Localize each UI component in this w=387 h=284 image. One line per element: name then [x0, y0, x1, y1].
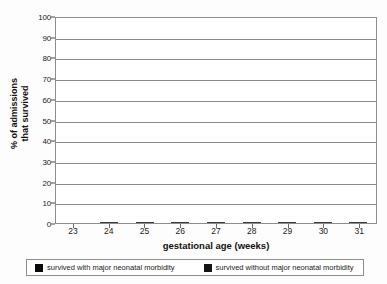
- bar-segment-without-morbidity[interactable]: [136, 222, 154, 223]
- y-axis-tick-mark: [51, 182, 55, 183]
- y-axis-tick-label: 40: [43, 137, 52, 146]
- y-axis-tick-label: 80: [43, 54, 52, 63]
- x-axis-tick-mark: [144, 224, 145, 228]
- x-axis-tick-label: 27: [198, 226, 234, 240]
- bar-segment-without-morbidity[interactable]: [278, 222, 296, 223]
- bar-series-group: [56, 18, 376, 223]
- x-axis-tick-mark: [252, 224, 253, 228]
- x-axis-ticks: 232425262728293031: [55, 226, 377, 240]
- bar-segment-without-morbidity[interactable]: [207, 222, 225, 223]
- x-axis-tick-label: 23: [55, 226, 91, 240]
- legend-item-with-morbidity: survived with major neonatal morbidity: [35, 263, 175, 272]
- bar-segment-without-morbidity[interactable]: [243, 222, 261, 223]
- x-axis-tick-mark: [180, 224, 181, 228]
- legend-label-without-morbidity: survived without major neonatal morbidit…: [216, 263, 354, 272]
- y-axis-tick-mark: [51, 17, 55, 18]
- chart-legend: survived with major neonatal morbidity s…: [26, 259, 364, 276]
- y-axis-tick-mark: [51, 37, 55, 38]
- bar-slot: [305, 18, 341, 223]
- stacked-bar[interactable]: [136, 222, 154, 223]
- x-axis-label: gestational age (weeks): [55, 240, 377, 251]
- chart-figure: % of admissions that survived 0102030405…: [0, 0, 387, 284]
- y-axis-tick-label: 100: [38, 13, 51, 22]
- bar-slot: [92, 18, 128, 223]
- y-axis-tick-label: 10: [43, 199, 52, 208]
- y-axis-tick-label: 30: [43, 157, 52, 166]
- x-axis-tick-mark: [109, 224, 110, 228]
- bar-segment-without-morbidity[interactable]: [171, 222, 189, 223]
- y-axis-tick-label: 20: [43, 178, 52, 187]
- bar-slot: [341, 18, 377, 223]
- stacked-bar[interactable]: [207, 222, 225, 223]
- x-axis-tick-label: 31: [341, 226, 377, 240]
- bar-slot: [198, 18, 234, 223]
- x-axis-tick-label: 29: [270, 226, 306, 240]
- y-axis-tick-mark: [51, 79, 55, 80]
- y-axis-tick-label: 50: [43, 116, 52, 125]
- x-axis-tick-mark: [73, 224, 74, 228]
- bar-segment-without-morbidity[interactable]: [100, 222, 118, 223]
- plot-area: [55, 17, 377, 224]
- stacked-bar[interactable]: [278, 222, 296, 223]
- y-axis-tick-mark: [51, 120, 55, 121]
- bar-segment-without-morbidity[interactable]: [349, 222, 367, 223]
- stacked-bar[interactable]: [100, 222, 118, 223]
- y-axis-tick-mark: [51, 141, 55, 142]
- y-axis-ticks: 0102030405060708090100: [30, 17, 51, 224]
- stacked-bar[interactable]: [314, 222, 332, 223]
- x-axis-tick-label: 24: [91, 226, 127, 240]
- stacked-bar[interactable]: [243, 222, 261, 223]
- x-axis-tick-label: 30: [305, 226, 341, 240]
- y-axis-tick-label: 60: [43, 95, 52, 104]
- y-axis-tick-mark: [51, 203, 55, 204]
- y-axis-label-line1: % of admissions: [9, 77, 20, 148]
- stacked-bar[interactable]: [349, 222, 367, 223]
- x-axis-tick-mark: [323, 224, 324, 228]
- y-axis-tick-mark: [51, 161, 55, 162]
- x-axis-tick-label: 26: [162, 226, 198, 240]
- bar-slot: [127, 18, 163, 223]
- bar-slot: [163, 18, 199, 223]
- bar-slot: [56, 18, 92, 223]
- y-axis-tick-mark: [51, 99, 55, 100]
- y-axis-label-line2: that survived: [19, 77, 30, 148]
- stacked-bar[interactable]: [171, 222, 189, 223]
- legend-swatch-without-morbidity: [204, 264, 212, 272]
- x-axis-tick-mark: [216, 224, 217, 228]
- x-axis-tick-mark: [288, 224, 289, 228]
- y-axis-tick-mark: [51, 224, 55, 225]
- y-axis-tick-label: 90: [43, 33, 52, 42]
- legend-swatch-with-morbidity: [35, 264, 43, 272]
- y-axis-tick-label: 70: [43, 75, 52, 84]
- x-axis-tick-label: 25: [127, 226, 163, 240]
- bar-slot: [234, 18, 270, 223]
- x-axis-tick-label: 28: [234, 226, 270, 240]
- legend-label-with-morbidity: survived with major neonatal morbidity: [47, 263, 175, 272]
- legend-item-without-morbidity: survived without major neonatal morbidit…: [204, 263, 354, 272]
- bar-slot: [269, 18, 305, 223]
- x-axis-tick-mark: [359, 224, 360, 228]
- y-axis-tick-mark: [51, 58, 55, 59]
- bar-segment-without-morbidity[interactable]: [314, 222, 332, 223]
